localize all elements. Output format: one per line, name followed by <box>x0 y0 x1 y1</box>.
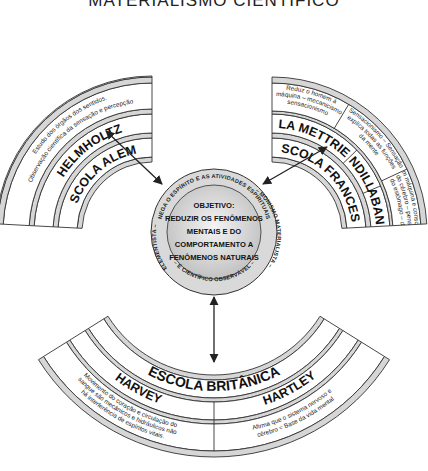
objective-line-1: OBJETIVO: <box>194 201 235 210</box>
diagram-title: MATERIALISMO CIENTÍFICO <box>88 0 339 10</box>
objective-line-5: FENÔMENOS NATURAIS <box>169 253 259 262</box>
german-school-fan: ESCOLA ALEMÃHELMHOLTZEstudo dos órgãos d… <box>0 0 152 228</box>
objective-line-3: MENTAIS E DO <box>187 227 241 236</box>
center-objective-circle: NEGA O ESPÍRITO E AS ATIVIDADES ESPIRITU… <box>151 169 282 295</box>
materialism-diagram: MATERIALISMO CIENTÍFICO ESCOLA ALEMÃHELM… <box>0 0 428 471</box>
objective-line-4: COMPORTAMENTO A <box>175 240 254 249</box>
objective-line-2: REDUZIR OS FENÔMENOS <box>165 214 263 223</box>
